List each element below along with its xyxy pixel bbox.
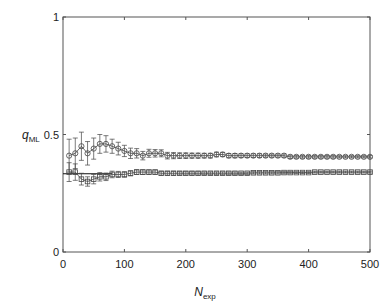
- x-tick-label: 100: [115, 258, 133, 270]
- series-squares: [67, 163, 373, 187]
- x-tick-label: 400: [299, 258, 317, 270]
- x-axis-label: Nexp: [194, 285, 216, 301]
- y-tick-label: 0: [53, 246, 59, 258]
- plot-border: [63, 17, 370, 252]
- y-axis-ticks: 00.51: [44, 11, 370, 258]
- series-circles: [67, 132, 373, 172]
- x-tick-label: 0: [60, 258, 66, 270]
- y-tick-label: 1: [53, 11, 59, 23]
- x-tick-label: 200: [177, 258, 195, 270]
- y-tick-label: 0.5: [44, 129, 59, 141]
- x-axis-ticks: 0100200300400500: [60, 17, 379, 270]
- plot-frame: [63, 17, 370, 252]
- chart-canvas: 0100200300400500 00.51 Nexp qML: [0, 0, 386, 308]
- x-tick-label: 500: [361, 258, 379, 270]
- x-tick-label: 300: [238, 258, 256, 270]
- y-axis-label: qML: [22, 128, 40, 144]
